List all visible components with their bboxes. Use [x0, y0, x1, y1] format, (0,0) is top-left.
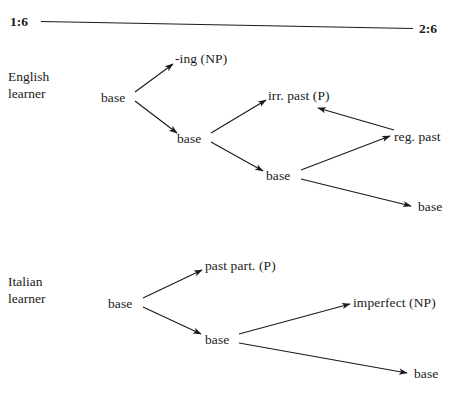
node-it-past-part: past part. (P) [205, 259, 276, 273]
edge-it-base2-to-base3 [239, 343, 407, 373]
node-en-irr-past: irr. past (P) [268, 89, 330, 103]
section-label-english-line2: learner [8, 85, 49, 102]
node-it-base-1: base [108, 297, 132, 311]
developmental-sequence-figure: 1:6 2:6 English learner base -ing (NP) b… [0, 0, 454, 406]
node-en-base-3: base [266, 169, 290, 183]
edge-en-base3-to-regpast [301, 136, 390, 170]
edge-en-base1-to-base2 [135, 101, 177, 133]
edge-it-base1-to-pastpart [143, 270, 202, 298]
section-label-italian-line1: Italian [8, 273, 45, 290]
section-label-italian-line2: learner [8, 290, 45, 307]
edge-en-regpast-to-irrpast [318, 108, 394, 130]
scale-right-label: 2:6 [419, 22, 437, 36]
node-it-imperfect: imperfect (NP) [353, 296, 436, 310]
section-label-english-line1: English [8, 68, 49, 85]
node-en-base-4: base [418, 200, 442, 214]
edge-en-base3-to-base4 [301, 179, 411, 206]
scale-left-label: 1:6 [10, 15, 28, 29]
edge-en-base2-to-irrpast [211, 100, 266, 133]
edge-it-base1-to-base2 [143, 307, 201, 334]
edge-en-base2-to-base3 [211, 142, 263, 171]
node-en-base-2: base [177, 132, 201, 146]
node-en-base-1: base [101, 91, 125, 105]
scale-rule [41, 22, 413, 29]
section-label-italian: Italian learner [8, 273, 45, 307]
node-it-base-2: base [205, 333, 229, 347]
edge-en-base1-to-ing [135, 64, 173, 92]
node-it-base-3: base [414, 367, 438, 381]
node-en-ing: -ing (NP) [175, 52, 227, 66]
section-label-english: English learner [8, 68, 49, 102]
node-en-reg-past: reg. past [394, 130, 441, 144]
edge-it-base2-to-imperfect [239, 304, 350, 334]
